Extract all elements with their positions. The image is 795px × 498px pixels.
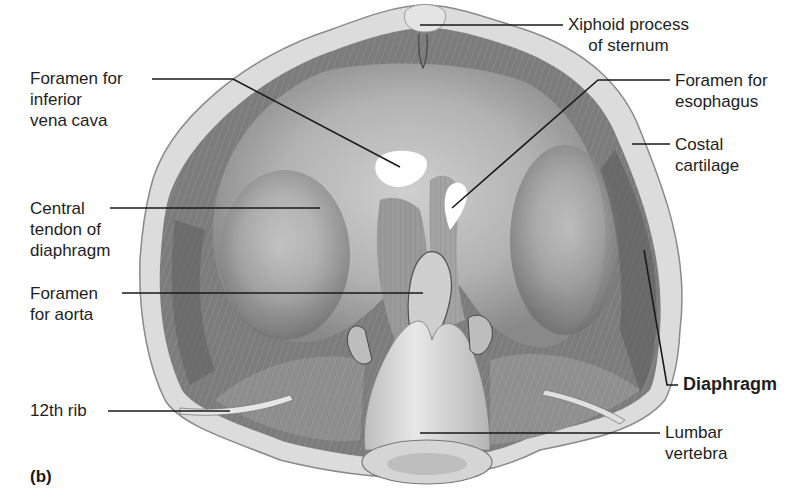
label-esophagus-line2: esophagus [675,91,768,112]
label-costal-cartilage: Costal cartilage [675,134,739,176]
label-central-tendon: Central tendon of diaphragm [30,198,110,261]
diaphragm-figure: Foramen for inferior vena cava Central t… [0,0,795,498]
label-costal-line2: cartilage [675,155,739,176]
label-central-tendon-line1: Central [30,198,110,219]
label-ivc-line1: Foramen for [30,68,123,89]
label-aortic-foramen: Foramen for aorta [30,283,98,325]
label-esophagus-line1: Foramen for [675,70,768,91]
label-esophageal-foramen: Foramen for esophagus [675,70,768,112]
label-central-tendon-line2: tendon of [30,219,110,240]
label-central-tendon-line3: diaphragm [30,240,110,261]
label-diaphragm-line1: Diaphragm [683,374,777,395]
label-ivc-line2: inferior [30,89,123,110]
label-diaphragm: Diaphragm [683,374,777,395]
label-lumbar-line1: Lumbar [665,422,727,443]
label-rib12-line1: 12th rib [30,400,87,421]
label-aorta-line1: Foramen [30,283,98,304]
xiphoid-process [404,5,445,33]
label-lumbar-line2: vertebra [665,443,727,464]
panel-tag: (b) [30,467,52,487]
label-xiphoid-line2: of sternum [568,35,689,56]
label-xiphoid-process: Xiphoid process of sternum [568,14,689,56]
label-ivc-foramen: Foramen for inferior vena cava [30,68,123,131]
label-xiphoid-line1: Xiphoid process [568,14,689,35]
label-costal-line1: Costal [675,134,739,155]
label-ivc-line3: vena cava [30,110,123,131]
label-lumbar-vertebra: Lumbar vertebra [665,422,727,464]
label-twelfth-rib: 12th rib [30,400,87,421]
label-aorta-line2: for aorta [30,304,98,325]
